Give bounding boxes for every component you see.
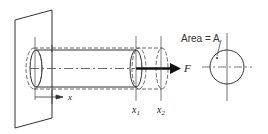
section-label-x2: x2 bbox=[156, 104, 165, 117]
section-label-x1: x1 bbox=[131, 104, 140, 117]
area-label: Area = A bbox=[181, 33, 220, 44]
bar-axial-load-diagram: F x1 x2 x Area = A bbox=[0, 0, 268, 134]
force-arrow bbox=[136, 63, 181, 74]
force-label: F bbox=[183, 62, 191, 74]
x-axis-label: x bbox=[67, 92, 72, 102]
